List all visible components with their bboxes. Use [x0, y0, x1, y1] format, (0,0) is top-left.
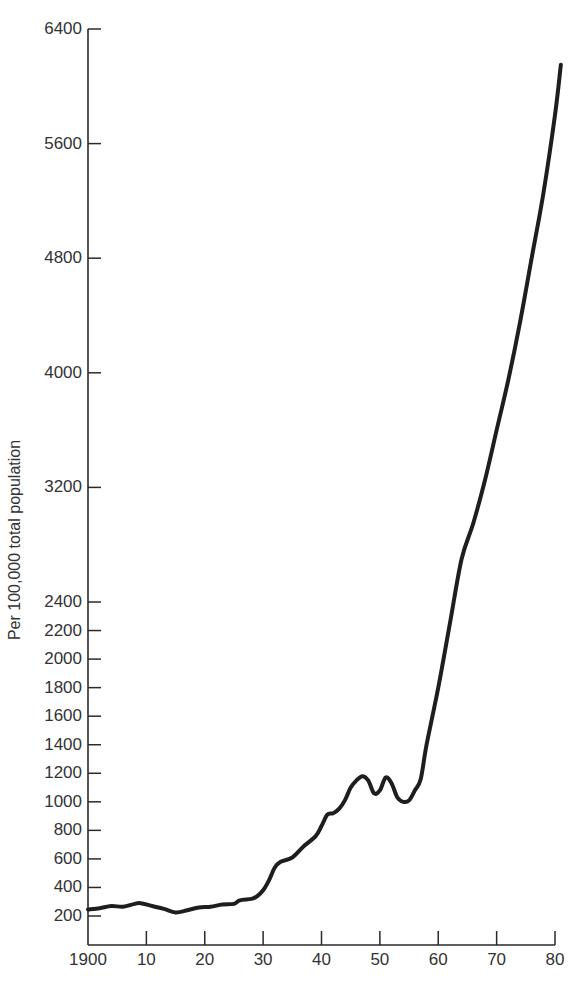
- x-tick-label: 1900: [63, 950, 113, 970]
- y-tick-label: 4000: [2, 363, 82, 383]
- x-tick-label: 80: [530, 950, 576, 970]
- y-tick-label: 600: [2, 849, 82, 869]
- y-tick-label: 1600: [2, 706, 82, 726]
- y-tick-label: 1800: [2, 678, 82, 698]
- y-tick-label: 1400: [2, 735, 82, 755]
- data-line: [88, 65, 561, 913]
- y-axis-title: Per 100,000 total population: [6, 440, 24, 640]
- y-tick-label: 1200: [2, 763, 82, 783]
- y-tick-label: 5600: [2, 134, 82, 154]
- x-tick-label: 60: [413, 950, 463, 970]
- x-tick-label: 70: [472, 950, 522, 970]
- x-tick-label: 40: [297, 950, 347, 970]
- y-tick-label: 800: [2, 820, 82, 840]
- y-tick-label: 4800: [2, 248, 82, 268]
- y-tick-label: 400: [2, 877, 82, 897]
- x-tick-label: 20: [180, 950, 230, 970]
- y-ticks: [88, 29, 101, 916]
- y-tick-label: 200: [2, 906, 82, 926]
- line-chart: [0, 0, 576, 988]
- y-tick-label: 1000: [2, 792, 82, 812]
- x-ticks: [146, 931, 555, 945]
- y-tick-label: 6400: [2, 19, 82, 39]
- x-tick-label: 30: [238, 950, 288, 970]
- x-tick-label: 10: [121, 950, 171, 970]
- x-tick-label: 50: [355, 950, 405, 970]
- y-tick-label: 2000: [2, 649, 82, 669]
